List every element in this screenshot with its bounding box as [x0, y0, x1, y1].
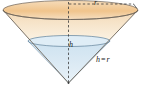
radius-label: r — [94, 0, 97, 7]
cone-diagram-figure: r h h=r — [0, 0, 141, 88]
height-equals-radius-label: h=r — [96, 56, 110, 64]
relation-right-term: r — [107, 55, 110, 64]
cone-top-rim — [3, 1, 138, 20]
apex-point — [68, 82, 70, 84]
height-label: h — [69, 41, 73, 49]
